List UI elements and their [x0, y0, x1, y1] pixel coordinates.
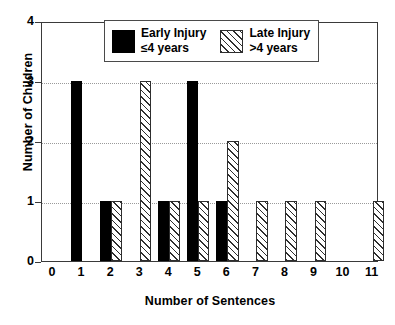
- y-tick-label-4: 4: [0, 15, 34, 28]
- x-tick-label-3: 3: [124, 266, 154, 279]
- bar-late-x11: [373, 201, 384, 261]
- bar-late-x6: [227, 141, 238, 261]
- y-tick-label-0: 0: [0, 255, 34, 268]
- y-tick-label-1: 1: [0, 195, 34, 208]
- bar-early-x6: [216, 201, 227, 261]
- bar-chart-figure: Number of Children Number of Sentences 0…: [0, 0, 395, 325]
- bar-late-x5: [198, 201, 209, 261]
- gridline-y-3: [42, 83, 377, 84]
- gridline-y-1: [42, 203, 377, 204]
- bar-late-x8: [285, 201, 296, 261]
- bar-late-x9: [315, 201, 326, 261]
- legend-swatch-early-injury-icon: [112, 30, 135, 53]
- x-tick-label-5: 5: [182, 266, 212, 279]
- y-tick-mark-0: [35, 262, 41, 263]
- x-tick-label-2: 2: [95, 266, 125, 279]
- bar-late-x7: [256, 201, 267, 261]
- x-tick-label-4: 4: [153, 266, 183, 279]
- gridline-y-2: [42, 143, 377, 144]
- x-tick-label-1: 1: [66, 266, 96, 279]
- bar-late-x2: [111, 201, 122, 261]
- x-tick-label-11: 11: [357, 266, 387, 279]
- x-tick-label-7: 7: [240, 266, 270, 279]
- y-axis-title: Number of Children: [21, 12, 35, 212]
- legend-label-late-injury: Late Injury >4 years: [249, 26, 310, 55]
- bar-early-x5: [187, 81, 198, 261]
- bar-late-x4: [169, 201, 180, 261]
- bar-early-x2: [100, 201, 111, 261]
- legend-entry-early-injury: Early Injury ≤4 years: [112, 26, 206, 55]
- x-tick-label-8: 8: [269, 266, 299, 279]
- bar-late-x3: [140, 81, 151, 261]
- legend-label-early-injury-sub: ≤4 years: [141, 41, 206, 56]
- legend-label-early-injury: Early Injury ≤4 years: [141, 26, 206, 55]
- legend-swatch-late-injury-icon: [220, 30, 243, 53]
- x-tick-label-6: 6: [211, 266, 241, 279]
- x-tick-label-0: 0: [37, 266, 67, 279]
- legend-label-late-injury-sub: >4 years: [249, 41, 310, 56]
- chart-legend: Early Injury ≤4 years Late Injury >4 yea…: [104, 20, 319, 62]
- y-tick-label-2: 2: [0, 135, 34, 148]
- legend-label-late-injury-name: Late Injury: [249, 26, 310, 41]
- legend-label-early-injury-name: Early Injury: [141, 26, 206, 41]
- legend-entry-late-injury: Late Injury >4 years: [220, 26, 310, 55]
- x-axis-title: Number of Sentences: [41, 294, 379, 308]
- x-tick-label-9: 9: [299, 266, 329, 279]
- bar-early-x1: [71, 81, 82, 261]
- x-tick-label-10: 10: [328, 266, 358, 279]
- bar-early-x4: [158, 201, 169, 261]
- y-tick-label-3: 3: [0, 75, 34, 88]
